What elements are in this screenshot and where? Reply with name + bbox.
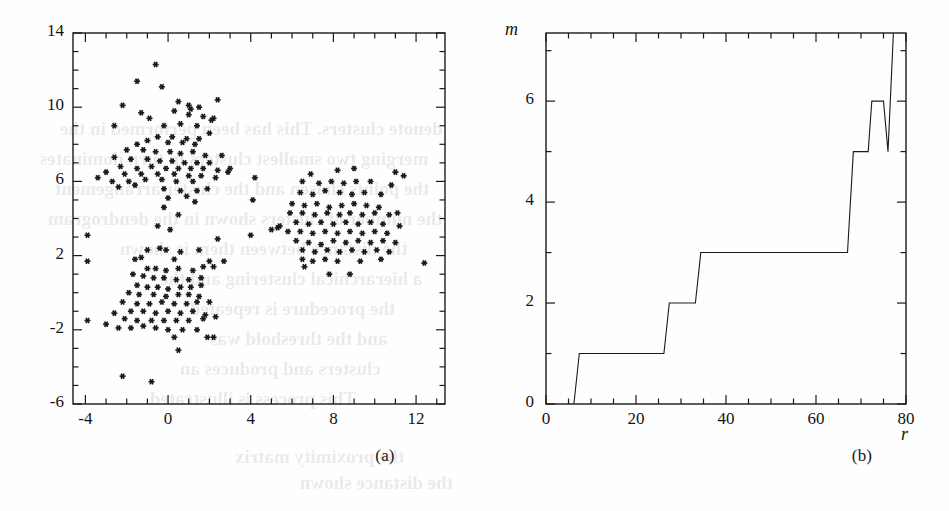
scatter-marker — [159, 177, 165, 182]
scatter-marker — [328, 179, 334, 184]
scatter-marker — [149, 164, 155, 169]
scatter-marker — [134, 142, 140, 147]
scatter-marker — [299, 210, 305, 215]
scatter-marker — [128, 309, 134, 314]
scatter-marker — [324, 210, 330, 215]
scatter-marker — [198, 275, 204, 280]
scatter-marker — [343, 240, 349, 245]
panel-b-xtick-60: 60 — [791, 409, 841, 429]
scatter-marker — [200, 166, 206, 171]
scatter-marker — [293, 238, 299, 243]
scatter-marker — [204, 335, 210, 340]
panel-b-ytick-2: 2 — [484, 291, 534, 311]
scatter-marker — [161, 186, 167, 191]
scatter-marker — [144, 247, 150, 252]
panel-b-ytick-4: 4 — [484, 190, 534, 210]
scatter-marker — [306, 240, 312, 245]
scatter-marker — [285, 229, 291, 234]
scatter-marker — [401, 173, 407, 178]
scatter-marker — [347, 229, 353, 234]
scatter-marker — [167, 227, 173, 232]
scatter-marker — [194, 188, 200, 193]
scatter-marker — [144, 266, 150, 271]
scatter-marker — [301, 264, 307, 269]
panel-a-data-points — [84, 62, 427, 384]
panel-a-scatter — [0, 0, 470, 430]
scatter-marker — [380, 238, 386, 243]
scatter-marker — [128, 157, 134, 162]
scatter-marker — [165, 327, 171, 332]
scatter-marker — [299, 179, 305, 184]
scatter-marker — [293, 220, 299, 225]
scatter-marker — [144, 138, 150, 143]
scatter-marker — [177, 311, 183, 316]
scatter-marker — [368, 179, 374, 184]
scatter-marker — [192, 142, 198, 147]
scatter-marker — [250, 197, 256, 202]
panel-a-ytick-10: 10 — [14, 95, 64, 115]
scatter-marker — [190, 149, 196, 154]
panel-b-svg — [470, 0, 949, 430]
scatter-marker — [326, 205, 332, 210]
scatter-marker — [161, 205, 167, 210]
scatter-marker — [361, 249, 367, 254]
scatter-marker — [149, 379, 155, 384]
scatter-marker — [190, 179, 196, 184]
scatter-marker — [161, 318, 167, 323]
panel-b-step-line — [574, 33, 894, 404]
scatter-marker — [134, 283, 140, 288]
scatter-marker — [173, 318, 179, 323]
scatter-marker — [215, 168, 221, 173]
scatter-marker — [194, 123, 200, 128]
scatter-marker — [378, 192, 384, 197]
scatter-marker — [175, 99, 181, 104]
scatter-marker — [180, 327, 186, 332]
scatter-marker — [103, 322, 109, 327]
scatter-marker — [149, 318, 155, 323]
scatter-marker — [126, 290, 132, 295]
scatter-marker — [132, 257, 138, 262]
scatter-marker — [335, 231, 341, 236]
scatter-marker — [200, 114, 206, 119]
scatter-marker — [330, 221, 336, 226]
scatter-marker — [310, 192, 316, 197]
scatter-marker — [306, 221, 312, 226]
scatter-marker — [380, 221, 386, 226]
figure-container: 14 10 6 2 -2 -6 -4 0 4 8 12 m r 6 4 2 0 … — [0, 0, 949, 511]
panel-a-axis-frame — [73, 33, 445, 404]
scatter-marker — [386, 249, 392, 254]
scatter-marker — [376, 205, 382, 210]
scatter-marker — [299, 247, 305, 252]
scatter-marker — [297, 190, 303, 195]
scatter-marker — [248, 233, 254, 238]
scatter-marker — [374, 247, 380, 252]
scatter-marker — [330, 238, 336, 243]
scatter-marker — [378, 257, 384, 262]
scatter-marker — [151, 292, 157, 297]
scatter-marker — [359, 212, 365, 217]
scatter-marker — [177, 249, 183, 254]
scatter-marker — [215, 236, 221, 241]
scatter-marker — [337, 212, 343, 217]
scatter-marker — [206, 131, 212, 136]
panel-b-ticks — [546, 33, 906, 404]
scatter-marker — [357, 259, 363, 264]
scatter-marker — [151, 275, 157, 280]
panel-a-xtick-4: 4 — [226, 409, 276, 429]
scatter-marker — [335, 259, 341, 264]
scatter-marker — [115, 184, 121, 189]
scatter-marker — [188, 285, 194, 290]
scatter-marker — [120, 374, 126, 379]
scatter-marker — [421, 260, 427, 265]
scatter-marker — [297, 229, 303, 234]
scatter-marker — [155, 223, 161, 228]
scatter-marker — [111, 123, 117, 128]
panel-a-xtick-0: 0 — [143, 409, 193, 429]
scatter-marker — [140, 323, 146, 328]
scatter-marker — [153, 149, 159, 154]
scatter-marker — [134, 79, 140, 84]
scatter-marker — [186, 112, 192, 117]
scatter-marker — [190, 309, 196, 314]
scatter-marker — [173, 179, 179, 184]
scatter-marker — [171, 171, 177, 176]
